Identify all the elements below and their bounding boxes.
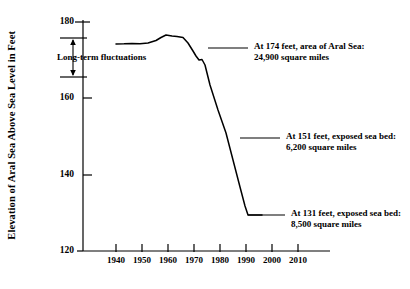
- callout-131-feet: At 131 feet, exposed sea bed: 8,500 squa…: [291, 208, 401, 230]
- callout-151-line1: At 151 feet, exposed sea bed:: [286, 131, 396, 141]
- y-tick-label-180: 180: [44, 17, 74, 27]
- y-axis-label-wrap: Elevation of Aral Sea Above Sea Level in…: [2, 0, 22, 270]
- chart-container: Elevation of Aral Sea Above Sea Level in…: [0, 0, 410, 289]
- y-axis-label: Elevation of Aral Sea Above Sea Level in…: [7, 31, 18, 240]
- y-tick-label-120: 120: [44, 246, 74, 256]
- fluctuation-label: Long-term fluctuations: [57, 53, 146, 62]
- arrow-up-icon: [70, 39, 76, 45]
- y-tick-label-140: 140: [44, 170, 74, 180]
- callout-151-line2: 6,200 square miles: [286, 142, 396, 153]
- callout-174-feet: At 174 feet, area of Aral Sea: 24,900 sq…: [254, 41, 365, 63]
- callout-174-line2: 24,900 square miles: [254, 52, 365, 63]
- callout-131-line2: 8,500 square miles: [291, 219, 401, 230]
- callout-174-line1: At 174 feet, area of Aral Sea:: [254, 41, 365, 51]
- data-series-aral-elevation: [116, 35, 262, 215]
- callout-151-feet: At 151 feet, exposed sea bed: 6,200 squa…: [286, 131, 396, 153]
- x-tick-label-2010: 2010: [281, 256, 315, 265]
- y-tick-label-160: 160: [44, 93, 74, 103]
- arrow-down-icon: [70, 70, 76, 76]
- callout-131-line1: At 131 feet, exposed sea bed:: [291, 208, 401, 218]
